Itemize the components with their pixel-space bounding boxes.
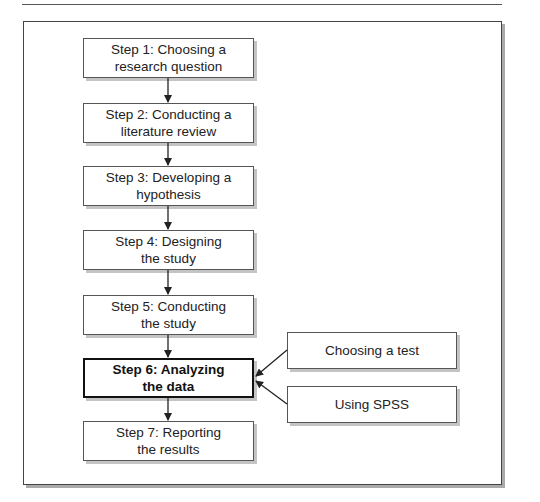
arrow-spss-to-6-icon	[256, 381, 287, 404]
connector-arrows	[0, 0, 540, 502]
arrow-test-to-6-icon	[256, 350, 287, 376]
